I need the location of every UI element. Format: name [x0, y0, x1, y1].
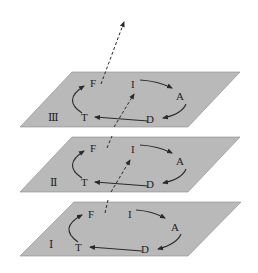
node-a-ii: A: [176, 155, 184, 167]
node-i-iii: I: [131, 78, 135, 90]
node-t-ii: T: [81, 176, 88, 188]
plane-iii: F I A D T Ⅲ: [20, 72, 240, 127]
plane-label-i: Ⅰ: [49, 238, 53, 250]
spiral-planes-diagram: F I A D T Ⅲ F I A D T Ⅱ F I A D T Ⅰ: [0, 0, 258, 273]
node-d-ii: D: [146, 178, 154, 190]
node-i-ii: I: [131, 143, 135, 155]
node-t-i: T: [75, 241, 82, 253]
node-a-i: A: [171, 221, 179, 233]
node-a-iii: A: [176, 90, 184, 102]
node-f-ii: F: [90, 142, 96, 154]
plane-i: F I A D T Ⅰ: [20, 202, 241, 256]
node-f-i: F: [88, 208, 94, 220]
node-i-i: I: [128, 208, 132, 220]
node-d-iii: D: [146, 113, 154, 125]
plane-label-ii: Ⅱ: [50, 176, 57, 188]
node-f-iii: F: [90, 77, 96, 89]
node-d-i: D: [141, 243, 149, 255]
plane-ii: F I A D T Ⅱ: [20, 137, 240, 192]
node-t-iii: T: [81, 111, 88, 123]
plane-label-iii: Ⅲ: [48, 111, 59, 123]
